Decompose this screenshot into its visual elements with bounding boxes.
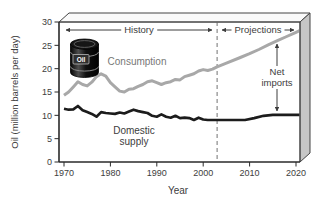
x-tick-label-1990: 1990	[147, 168, 167, 178]
series-line-domestic-supply	[64, 106, 300, 120]
y-tick-label-30: 30	[42, 17, 52, 27]
y-tick-label-0: 0	[47, 157, 52, 167]
history-label: History	[121, 25, 157, 36]
domestic-supply-series-label: Domestic supply	[104, 126, 164, 147]
box-top-face	[59, 13, 310, 22]
y-axis-title: Oil (million barrels per day)	[9, 35, 20, 149]
x-tick-label-2010: 2010	[240, 168, 260, 178]
x-tick-label-1970: 1970	[54, 168, 74, 178]
x-tick-label-1980: 1980	[100, 168, 120, 178]
y-tick-label-5: 5	[47, 134, 52, 144]
consumption-series-label: Consumption	[108, 57, 167, 68]
oil-barrel-icon: Oil	[71, 39, 99, 78]
x-tick-label-2020: 2020	[286, 168, 306, 178]
oil-history-projections-chart: 197019801990200020102020051015202530 Oil…	[0, 0, 331, 210]
y-tick-label-15: 15	[42, 87, 52, 97]
net-imports-label: Net imports	[258, 66, 296, 89]
x-axis-title: Year	[168, 186, 188, 197]
barrel-label-text: Oil	[77, 56, 86, 63]
box-right-face	[300, 13, 310, 162]
y-tick-label-20: 20	[42, 64, 52, 74]
projections-label: Projections	[232, 25, 285, 36]
y-tick-label-10: 10	[42, 111, 52, 121]
y-tick-label-25: 25	[42, 41, 52, 51]
x-tick-label-2000: 2000	[193, 168, 213, 178]
